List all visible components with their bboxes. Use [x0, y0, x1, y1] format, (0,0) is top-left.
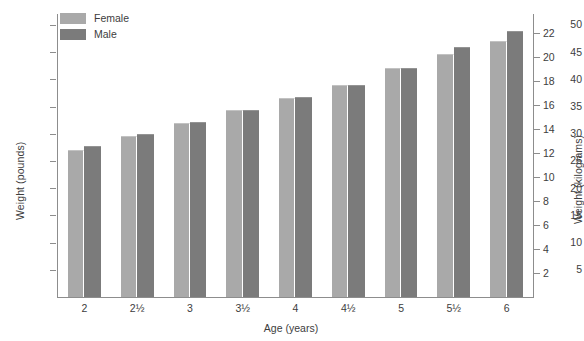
x-axis-tick-label: 3½: [217, 303, 269, 314]
y-axis-tick-right: [534, 129, 540, 130]
bar-female: [226, 110, 242, 297]
y-axis-tick-left: [50, 25, 56, 26]
y-axis-tick-left: [50, 161, 56, 162]
bar-female: [437, 54, 453, 297]
bar-group: [332, 14, 365, 297]
bar-male: [401, 68, 417, 297]
y-axis-tick-label-right: 12: [543, 148, 573, 159]
bar-group: [226, 14, 259, 297]
y-axis-tick-right: [534, 105, 540, 106]
bar-male: [84, 146, 100, 297]
x-axis-tick-label: 5: [375, 303, 427, 314]
bar-female: [174, 123, 190, 297]
y-axis-tick-label-right: 22: [543, 28, 573, 39]
y-axis-tick-right: [534, 177, 540, 178]
bar-group: [490, 14, 523, 297]
y-axis-tick-left: [50, 134, 56, 135]
y-axis-tick-left: [50, 243, 56, 244]
x-axis-tick-label: 3: [164, 303, 216, 314]
y-axis-tick-right: [534, 201, 540, 202]
bar-female: [332, 85, 348, 297]
bar-group: [385, 14, 418, 297]
bar-group: [437, 14, 470, 297]
bar-group: [121, 14, 154, 297]
legend-swatch-male: [60, 29, 86, 40]
legend-swatch-female: [60, 13, 86, 24]
y-axis-tick-label-right: 18: [543, 76, 573, 87]
bar-male: [190, 122, 206, 297]
x-axis-tick-label: 4: [270, 303, 322, 314]
y-axis-tick-left: [50, 79, 56, 80]
y-axis-tick-right: [534, 225, 540, 226]
bar-group: [68, 14, 101, 297]
legend: FemaleMale: [60, 13, 129, 45]
bar-female: [121, 136, 137, 297]
y-axis-tick-label-right: 14: [543, 124, 573, 135]
y-axis-tick-label-right: 6: [543, 220, 573, 231]
y-axis-label-left: Weight (pounds): [14, 142, 26, 220]
y-axis-tick-left: [50, 52, 56, 53]
x-axis-tick-label: 6: [481, 303, 533, 314]
y-axis-tick-right: [534, 81, 540, 82]
x-axis-label: Age (years): [0, 322, 582, 334]
bar-male: [454, 47, 470, 297]
y-axis-tick-right: [534, 57, 540, 58]
bars-layer: [58, 14, 533, 297]
legend-label: Male: [94, 29, 117, 40]
bar-group: [279, 14, 312, 297]
legend-item: Male: [60, 29, 129, 40]
y-axis-tick-label-right: 20: [543, 52, 573, 63]
y-axis-tick-left: [50, 188, 56, 189]
y-axis-tick-left: [50, 215, 56, 216]
bar-male: [507, 31, 523, 297]
y-axis-tick-label-left: 20: [536, 183, 582, 194]
legend-item: Female: [60, 13, 129, 24]
y-axis-tick-label-right: 2: [543, 268, 573, 279]
bar-female: [68, 150, 84, 297]
bar-female: [279, 98, 295, 297]
bar-male: [295, 97, 311, 297]
y-axis-tick-label-right: 8: [543, 196, 573, 207]
y-axis-tick-right: [534, 33, 540, 34]
bar-male: [243, 110, 259, 297]
x-axis-tick-label: 4½: [322, 303, 374, 314]
y-axis-tick-label-right: 10: [543, 172, 573, 183]
y-axis-tick-left: [50, 107, 56, 108]
bar-male: [348, 85, 364, 297]
y-axis-tick-label-right: 16: [543, 100, 573, 111]
x-axis-tick-label: 2½: [111, 303, 163, 314]
y-axis-tick-label-right: 4: [543, 244, 573, 255]
bar-male: [137, 134, 153, 297]
y-axis-tick-right: [534, 153, 540, 154]
y-axis-tick-right: [534, 273, 540, 274]
y-axis-tick-right: [534, 249, 540, 250]
legend-label: Female: [94, 13, 129, 24]
bar-female: [385, 68, 401, 297]
x-axis-tick-label: 2: [58, 303, 110, 314]
y-axis-tick-left: [50, 270, 56, 271]
bar-female: [490, 41, 506, 297]
bar-group: [174, 14, 207, 297]
x-axis-tick-label: 5½: [428, 303, 480, 314]
